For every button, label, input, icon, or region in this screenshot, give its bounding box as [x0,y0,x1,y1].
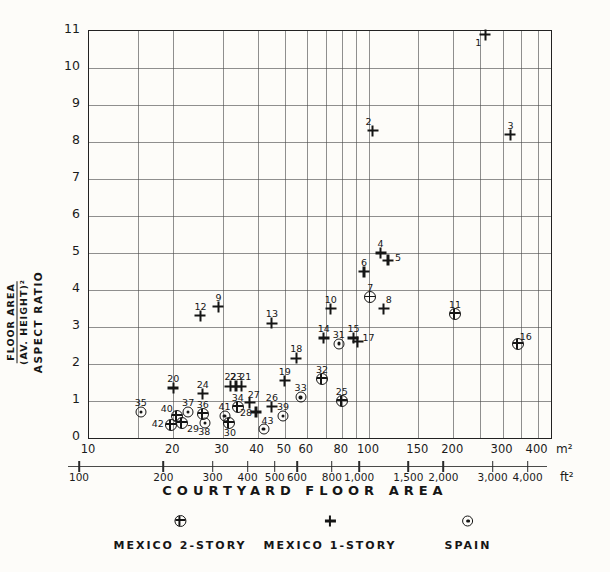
data-point-number: 15 [347,324,359,334]
legend-symbol [173,514,187,528]
data-point-number: 36 [197,400,209,410]
gridline-horizontal [89,105,551,106]
data-point-number: 27 [248,390,260,400]
legend-entry: MEXICO 1-STORY [263,514,396,552]
circle-cross-icon [165,419,177,431]
x-tick-label-ft2: 1,500 [393,472,423,483]
data-point-number: 25 [336,387,348,397]
legend-entry: SPAIN [445,514,492,552]
data-point-number: 8 [386,295,392,305]
y-tick-label: 5 [42,245,80,258]
gridline-horizontal [89,68,551,69]
y-axis-title-numerator: FLOOR AREA [5,281,18,363]
gridline-vertical [418,31,419,438]
gridline-horizontal [89,253,551,254]
data-point-number: 18 [290,345,302,355]
x-tick-label-m2: 150 [406,444,428,456]
x-tick-label-ft2: 800 [322,472,342,483]
data-point-number: 31 [333,330,345,340]
x-tick-label-m2: 80 [334,444,349,456]
data-point-number: 3 [507,121,513,131]
gridline-horizontal [89,290,551,291]
legend-label: MEXICO 1-STORY [263,539,396,552]
x-tick-label-m2: 60 [299,444,314,456]
legend-symbol [323,514,337,528]
gridline-vertical [521,31,522,438]
data-point-number: 14 [318,324,330,334]
data-point-number: 40 [161,404,173,414]
gridline-vertical [369,31,370,438]
plus-icon [251,407,262,418]
x-tick-label-ft2: 600 [287,472,307,483]
gridline-horizontal [89,401,551,402]
gridline-horizontal [89,142,551,143]
data-point-number: 19 [279,367,291,377]
x-tick-label-m2: 40 [249,444,264,456]
data-point-number: 23 [230,372,242,382]
data-point-number: 4 [378,239,384,249]
legend-symbol [461,514,475,528]
x-tick-label-m2: 200 [441,444,463,456]
x-axis-title: COURTYARD FLOOR AREA [0,483,610,498]
y-tick-label: 4 [42,282,80,295]
data-point-number: 32 [316,365,328,375]
data-point-number: 7 [367,284,373,294]
x-axis-unit-m2: m² [556,442,573,456]
data-point-number: 13 [266,310,278,320]
legend-label: MEXICO 2-STORY [113,539,246,552]
gridline-vertical [138,31,139,438]
circle-cross-icon [174,515,186,527]
y-tick-label: 10 [42,60,80,73]
gridline-vertical [356,31,357,438]
gridline-vertical [503,31,504,438]
ft2-ruler-line [68,466,547,467]
y-tick-label: 7 [42,171,80,184]
x-tick-label-ft2: 1,000 [344,472,374,483]
y-tick-label: 6 [42,208,80,221]
data-point-number: 38 [198,427,210,437]
y-axis-title: FLOOR AREA (AV. HEIGHT)² ASPECT RATIO [5,271,44,373]
plot-area: 7111625293032343640421234568910121314151… [88,30,552,439]
y-tick-label: 2 [42,356,80,369]
data-point-number: 20 [167,374,179,384]
data-point-number: 42 [152,419,164,429]
data-point-number: 17 [362,333,374,343]
x-tick-label-m2: 300 [491,444,513,456]
legend-label: SPAIN [445,539,492,552]
data-point-number: 28 [240,408,252,418]
gridline-vertical [342,31,343,438]
data-point-number: 16 [520,332,532,342]
gridline-vertical [480,31,481,438]
x-tick-label-ft2: 500 [265,472,285,483]
data-point-number: 9 [215,293,221,303]
x-axis-unit-ft2: ft² [560,470,574,484]
gridline-horizontal [89,179,551,180]
y-tick-label: 9 [42,97,80,110]
x-tick-label-m2: 30 [214,444,229,456]
y-tick-label: 0 [42,430,80,443]
data-point-number: 5 [395,254,401,264]
x-tick-label-ft2: 100 [69,472,89,483]
x-tick-label-ft2: 300 [203,472,223,483]
x-tick-label-m2: 100 [357,444,379,456]
x-tick-label-ft2: 4,000 [513,472,543,483]
scatter-chart-figure: 7111625293032343640421234568910121314151… [0,0,610,572]
y-axis-title-denominator: (AV. HEIGHT)² [18,271,29,373]
x-tick-label-ft2: 3,000 [478,472,508,483]
gridline-vertical [538,31,539,438]
data-point-number: 41 [219,402,231,412]
x-tick-label-ft2: 2,000 [428,472,458,483]
x-tick-label-ft2: 200 [153,472,173,483]
data-point-number: 33 [295,384,307,394]
x-tick-label-m2: 10 [81,444,96,456]
y-tick-label: 8 [42,134,80,147]
plus-icon [383,255,394,266]
data-point-number: 1 [475,38,481,48]
gridline-vertical [307,31,308,438]
data-point-number: 35 [135,398,147,408]
data-point-number: 2 [366,117,372,127]
plus-icon [480,29,491,40]
data-point-number: 34 [232,393,244,403]
data-point-number: 37 [182,398,194,408]
y-tick-label: 11 [42,23,80,36]
